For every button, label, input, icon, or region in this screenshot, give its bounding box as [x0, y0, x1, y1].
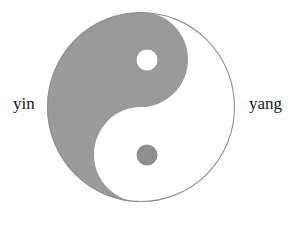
light-dot — [137, 50, 158, 71]
label-yin: yin — [13, 95, 35, 112]
label-yang: yang — [249, 95, 282, 112]
yin-yang-figure: yin yang — [0, 0, 303, 231]
taijitu-icon — [46, 11, 236, 203]
dark-dot — [137, 145, 158, 166]
